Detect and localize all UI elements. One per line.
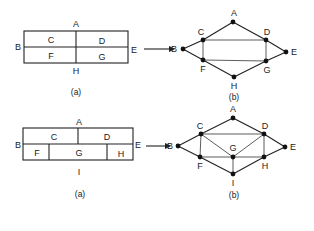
edge-c-f: [200, 134, 201, 157]
top-graph-label-h: H: [231, 81, 238, 91]
bottom-graph-label-b: B: [167, 141, 173, 151]
bottom-floorplan: A B E I C D F G H (a): [15, 117, 141, 199]
bottom-floorplan-room-c: C: [51, 132, 58, 142]
node-g: [264, 59, 269, 64]
bottom-floorplan-caption: (a): [75, 189, 86, 199]
diagram-canvas: A B E H C D F G (a) A B: [0, 0, 314, 231]
bottom-graph-label-f: F: [197, 161, 203, 171]
node-b: [181, 47, 186, 52]
bottom-floorplan-room-g: G: [75, 148, 82, 158]
bottom-floorplan-label-e: E: [135, 140, 141, 150]
edge-b-c: [178, 134, 201, 146]
node-e: [283, 145, 288, 150]
bottom-graph-label-c: C: [197, 121, 204, 131]
node-h: [232, 75, 237, 80]
edge-f-g: [203, 60, 266, 61]
top-floorplan-room-c: C: [48, 35, 55, 45]
edge-e-h: [264, 147, 285, 157]
edge-f-i: [200, 157, 233, 174]
top-floorplan-room-g: G: [98, 52, 105, 62]
top-floorplan-label-a: A: [73, 19, 79, 29]
edge-a-c: [203, 22, 233, 40]
edge-b-f: [178, 146, 200, 157]
bottom-graph-label-a: A: [230, 104, 236, 114]
edge-f-h: [203, 60, 234, 77]
bottom-graph-label-e: E: [290, 142, 296, 152]
edge-a-d: [233, 22, 266, 40]
top-graph-caption: (b): [229, 92, 240, 102]
bottom-graph-label-g: G: [229, 143, 236, 153]
edge-d-e: [266, 40, 286, 52]
node-d: [264, 38, 269, 43]
bottom-floorplan-room-f: F: [34, 148, 40, 158]
top-graph-label-a: A: [231, 8, 237, 18]
bottom-floorplan-label-a: A: [76, 117, 82, 127]
edge-g-h: [234, 61, 266, 77]
edge-c-g: [201, 134, 233, 157]
bottom-graph-label-h: H: [262, 161, 269, 171]
edge-a-c: [201, 118, 233, 134]
bottom-floorplan-label-b: B: [15, 140, 21, 150]
node-c: [199, 132, 204, 137]
edge-h-i: [233, 157, 264, 174]
top-floorplan-room-d: D: [99, 36, 106, 46]
node-a: [231, 116, 236, 121]
edge-a-d: [233, 118, 264, 134]
node-d: [262, 132, 267, 137]
node-e: [284, 50, 289, 55]
top-floorplan-room-f: F: [48, 51, 54, 61]
edge-d-g: [233, 134, 264, 157]
node-f: [201, 58, 206, 63]
node-f: [198, 155, 203, 160]
top-graph-label-c: C: [198, 27, 205, 37]
bottom-graph-label-i: I: [232, 178, 235, 188]
top-graph-label-f: F: [200, 64, 206, 74]
node-c: [201, 38, 206, 43]
edge-b-f: [183, 49, 203, 60]
node-i: [231, 172, 236, 177]
top-graph-label-d: D: [264, 27, 271, 37]
top-floorplan-label-b: B: [15, 42, 21, 52]
node-b: [176, 144, 181, 149]
top-floorplan-label-h: H: [73, 66, 80, 76]
top-floorplan: A B E H C D F G (a): [15, 19, 137, 97]
top-graph-label-b: B: [171, 44, 177, 54]
node-g: [231, 155, 236, 160]
bottom-graph-caption: (b): [229, 190, 240, 200]
top-graph-label-g: G: [263, 65, 270, 75]
edge-e-g: [266, 52, 286, 61]
top-floorplan-caption: (a): [71, 87, 82, 97]
bottom-floorplan-label-i: I: [78, 167, 81, 177]
node-h: [262, 155, 267, 160]
node-a: [231, 20, 236, 25]
edge-d-e: [264, 134, 285, 147]
top-graph-label-e: E: [291, 47, 297, 57]
bottom-graph: A B C D E F G H I (b): [167, 104, 296, 200]
top-floorplan-label-e: E: [131, 45, 137, 55]
bottom-floorplan-room-h: H: [118, 149, 125, 159]
bottom-graph-label-d: D: [262, 121, 269, 131]
bottom-floorplan-room-d: D: [104, 132, 111, 142]
top-graph: A B C D E F G H (b): [171, 8, 297, 102]
edge-b-c: [183, 40, 203, 49]
